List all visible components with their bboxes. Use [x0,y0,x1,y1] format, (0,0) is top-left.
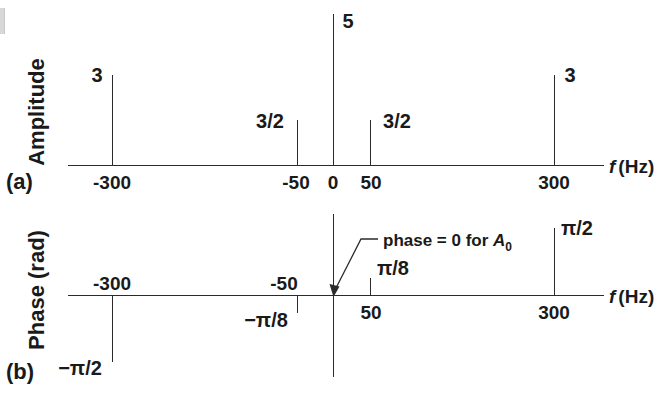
panel-b-tick-minus300: -300 [93,273,131,294]
panel-b-annotation-text-subscript: 0 [505,240,512,254]
panel-a-value-plus50: 3/2 [383,110,411,132]
panel-b-value-minus300: −π/2 [58,357,102,379]
panel-a-value-plus300: 3 [564,64,575,86]
panel-b-x-axis-label: f(Hz) [609,286,654,307]
spectrum-figure-svg: Amplitude (a) f(Hz) 3 -300 3/2 -50 5 0 3… [0,0,666,393]
panel-b-tag: (b) [6,359,34,384]
panel-a-x-axis-label: f(Hz) [609,156,654,177]
panel-a-tick-zero: 0 [328,172,339,193]
panel-b-tick-plus50: 50 [360,302,381,323]
panel-b-y-axis-title: Phase (rad) [24,230,49,350]
panel-b-annotation-text-before: phase = 0 for [383,231,493,250]
panel-a-value-minus50: 3/2 [256,110,284,132]
panel-a-tick-minus50: -50 [282,172,309,193]
panel-a-y-axis-title: Amplitude [24,58,49,166]
panel-a-tick-minus300: -300 [93,172,131,193]
panel-a-tick-plus50: 50 [360,172,381,193]
figure-container: Amplitude (a) f(Hz) 3 -300 3/2 -50 5 0 3… [0,0,666,393]
panel-b-value-plus300: π/2 [561,217,593,239]
panel-a-x-axis-label-italic: f [609,156,617,177]
panel-a-value-minus300: 3 [91,64,102,86]
panel-b-phase: Phase (rad) (b) f(Hz) -300 −π/2 -50 −π/8… [6,214,654,384]
panel-b-value-minus50: −π/8 [244,309,288,331]
panel-a-value-zero: 5 [342,10,353,32]
panel-b-tick-plus300: 300 [538,302,570,323]
panel-a-x-axis-label-units: (Hz) [618,156,654,177]
panel-a-tick-plus300: 300 [538,172,570,193]
panel-b-value-plus50: π/8 [377,257,409,279]
panel-a-tag: (a) [6,169,33,194]
panel-b-annotation-leader [336,239,378,288]
panel-b-x-axis-label-units: (Hz) [618,286,654,307]
page-edge-artifact [0,8,5,34]
panel-a-amplitude: Amplitude (a) f(Hz) 3 -300 3/2 -50 5 0 3… [6,10,654,194]
panel-b-tick-minus50: -50 [270,273,297,294]
panel-b-annotation-text: phase = 0 for A0 [383,231,512,254]
panel-b-annotation-text-italic: A [492,231,505,250]
panel-b-x-axis-label-italic: f [609,286,617,307]
